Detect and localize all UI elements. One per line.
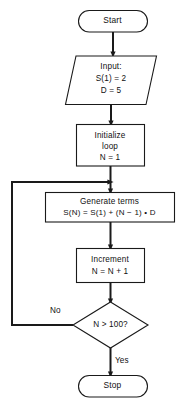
flowchart-graphics: [0, 0, 182, 409]
increment-process-shape: [77, 249, 145, 283]
flowchart-canvas: Start Input: S(1) = 2 D = 5 Initialize l…: [0, 0, 182, 409]
initialize-process-shape: [77, 125, 145, 167]
edge-label-yes: Yes: [115, 356, 129, 366]
generate-terms-process-shape: [46, 193, 175, 223]
start-terminal-shape: [79, 11, 148, 33]
input-parallelogram-shape: [66, 56, 157, 105]
decision-diamond-shape: [73, 302, 148, 348]
stop-terminal-shape: [79, 376, 148, 398]
edge-label-no: No: [50, 306, 61, 316]
